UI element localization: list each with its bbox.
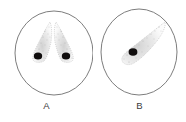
figure-root: A [0, 0, 186, 122]
nucleus-a-left [34, 52, 42, 59]
cell-membrane-a [15, 11, 93, 95]
panel-b: B [93, 0, 186, 122]
panel-a: A [0, 0, 93, 122]
panel-b-label: B [93, 100, 186, 111]
panel-a-label: A [0, 100, 93, 111]
nucleus-b [129, 48, 138, 56]
nucleus-a-right [62, 52, 70, 59]
